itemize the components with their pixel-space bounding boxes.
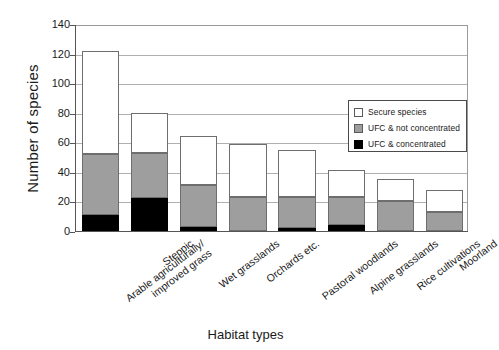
bar-segment-conc[interactable] bbox=[131, 198, 168, 231]
bar-segment-notconc[interactable] bbox=[278, 197, 315, 228]
bar-segment-notconc[interactable] bbox=[328, 197, 365, 225]
bar[interactable] bbox=[328, 170, 365, 231]
bar-segment-secure[interactable] bbox=[278, 150, 315, 197]
y-axis-tick-label: 80 bbox=[36, 107, 70, 119]
legend-item[interactable]: Secure species bbox=[354, 105, 461, 119]
bar[interactable] bbox=[426, 190, 463, 231]
bar-segment-notconc[interactable] bbox=[180, 185, 217, 226]
bar-segment-secure[interactable] bbox=[426, 190, 463, 212]
y-axis-tick-label: 60 bbox=[36, 136, 70, 148]
bar[interactable] bbox=[377, 179, 414, 231]
bar-segment-notconc[interactable] bbox=[82, 154, 119, 215]
chart-legend: Secure speciesUFC & not concentratedUFC … bbox=[348, 100, 467, 152]
bar-segment-conc[interactable] bbox=[278, 228, 315, 231]
legend-label: UFC & concentrated bbox=[368, 139, 446, 149]
bar[interactable] bbox=[180, 136, 217, 231]
bar-segment-secure[interactable] bbox=[131, 113, 168, 153]
legend-swatch-secure bbox=[354, 108, 363, 117]
bar-segment-notconc[interactable] bbox=[131, 153, 168, 199]
bar-segment-conc[interactable] bbox=[82, 215, 119, 231]
bar[interactable] bbox=[229, 144, 266, 231]
y-axis-tick-label: 20 bbox=[36, 195, 70, 207]
bar-segment-notconc[interactable] bbox=[377, 201, 414, 231]
bar-segment-notconc[interactable] bbox=[229, 197, 266, 231]
bar-segment-secure[interactable] bbox=[229, 144, 266, 197]
bar-segment-notconc[interactable] bbox=[426, 212, 463, 231]
y-axis-tick-label: 0 bbox=[36, 225, 70, 237]
bar-segment-conc[interactable] bbox=[328, 225, 365, 231]
bar-segment-conc[interactable] bbox=[180, 227, 217, 231]
bar[interactable] bbox=[131, 113, 168, 231]
bar[interactable] bbox=[278, 150, 315, 231]
bar-segment-secure[interactable] bbox=[328, 170, 365, 197]
bar[interactable] bbox=[82, 51, 119, 231]
legend-label: Secure species bbox=[368, 107, 427, 117]
legend-label: UFC & not concentrated bbox=[368, 123, 460, 133]
x-axis-category-label: Pastoral woodlands bbox=[319, 237, 399, 302]
bar-segment-secure[interactable] bbox=[377, 179, 414, 201]
legend-item[interactable]: UFC & not concentrated bbox=[354, 121, 461, 135]
legend-swatch-conc bbox=[354, 140, 363, 149]
bar-segment-secure[interactable] bbox=[82, 51, 119, 155]
x-axis-title: Habitat types bbox=[0, 327, 491, 342]
legend-item[interactable]: UFC & concentrated bbox=[354, 137, 461, 151]
y-axis-tick-label: 100 bbox=[36, 77, 70, 89]
x-axis-category-label: Alpine grasslands bbox=[366, 237, 439, 296]
y-axis-tick-label: 140 bbox=[36, 18, 70, 30]
bar-segment-secure[interactable] bbox=[180, 136, 217, 185]
y-axis-tick-label: 40 bbox=[36, 166, 70, 178]
y-axis-tick bbox=[70, 232, 75, 233]
y-axis-title: Number of species bbox=[24, 39, 41, 219]
x-axis-category-label: Arable agriculturally/improved grass bbox=[123, 237, 213, 313]
legend-swatch-notconc bbox=[354, 124, 363, 133]
y-axis-tick-label: 120 bbox=[36, 48, 70, 60]
